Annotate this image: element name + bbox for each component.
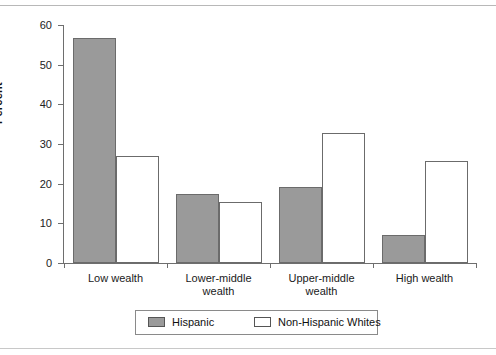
y-tick-mark [58, 104, 63, 105]
x-tick-mark [373, 263, 374, 268]
bar-hispanic [176, 194, 219, 263]
legend-label-hispanic: Hispanic [172, 316, 214, 328]
legend-label-non-hispanic-whites: Non-Hispanic Whites [278, 316, 381, 328]
bar-non-hispanic-whites [322, 133, 365, 263]
chart-figure: Percent 0102030405060 Low wealthLower-mi… [0, 0, 496, 355]
legend-swatch-non-hispanic-whites [254, 317, 271, 327]
bar-hispanic [73, 38, 116, 263]
bar-non-hispanic-whites [116, 156, 159, 263]
y-tick-mark [58, 65, 63, 66]
y-tick-mark [58, 25, 63, 26]
bar-non-hispanic-whites [425, 161, 468, 263]
y-tick-mark [58, 144, 63, 145]
y-tick-mark [58, 223, 63, 224]
bar-hispanic [279, 187, 322, 263]
bar-hispanic [382, 235, 425, 263]
x-tick-mark [64, 263, 65, 268]
x-tick-mark [270, 263, 271, 268]
legend-swatch-hispanic [148, 317, 165, 327]
x-category-label: Low wealth [64, 272, 167, 285]
y-tick-label: 20 [0, 179, 52, 190]
y-tick-label: 60 [0, 20, 52, 31]
y-tick-mark [58, 184, 63, 185]
x-tick-mark [476, 263, 477, 268]
legend-item-non-hispanic-whites: Non-Hispanic Whites [254, 316, 381, 328]
y-tick-mark [58, 263, 63, 264]
x-category-label: Upper-middle wealth [270, 272, 373, 298]
y-tick-label: 0 [0, 258, 52, 269]
x-category-label: High wealth [373, 272, 476, 285]
y-tick-label: 50 [0, 60, 52, 71]
bar-non-hispanic-whites [219, 202, 262, 263]
figure-bottom-rule [0, 348, 496, 349]
chart-legend: Hispanic Non-Hispanic Whites [135, 310, 378, 335]
y-tick-label: 40 [0, 99, 52, 110]
plot-area [64, 25, 476, 263]
x-category-label: Lower-middle wealth [167, 272, 270, 298]
y-tick-label: 30 [0, 139, 52, 150]
x-tick-mark [167, 263, 168, 268]
y-tick-label: 10 [0, 218, 52, 229]
legend-item-hispanic: Hispanic [148, 316, 214, 328]
figure-top-rule [0, 5, 496, 6]
